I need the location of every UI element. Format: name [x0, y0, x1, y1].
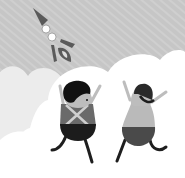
rocket-window-icon — [48, 33, 56, 41]
illustration-canvas — [0, 0, 185, 178]
character-left-eye — [86, 99, 88, 101]
illustration — [0, 0, 185, 178]
rocket-window-icon — [42, 25, 50, 33]
